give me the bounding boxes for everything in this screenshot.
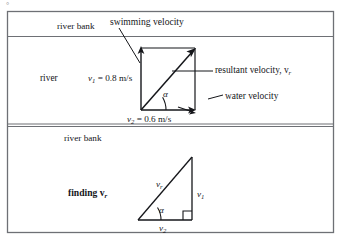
label-alpha-top: α [163,90,168,99]
finding-text: finding v [68,187,105,198]
resultant-velocity-subscript: r [289,69,292,76]
triangle-vr-subscript: r [160,183,163,190]
label-swimming-velocity: swimming velocity [110,17,184,27]
leader-line-swimming-velocity [119,28,140,63]
leader-line-water-velocity [208,95,223,99]
label-alpha-triangle: α [159,206,164,215]
triangle-v1-subscript: 1 [201,193,204,200]
resultant-velocity-text: resultant velocity, v [215,65,289,75]
v2-value-text: = 0.6 m/s [134,114,171,124]
right-angle-marker-icon [183,211,192,220]
label-triangle-v2: v2 [159,224,166,234]
label-triangle-vr: vr [156,180,163,190]
label-river-bank-top: river bank [57,22,95,31]
triangle-v2-subscript: 2 [163,227,166,234]
finding-subscript: r [105,192,108,199]
label-v2-value: v2 = 0.6 m/s [127,115,171,125]
figure-page: ° [0,0,342,242]
label-v1-value: v1 = 0.8 m/s [88,74,132,84]
label-river: river [40,74,58,83]
label-triangle-v1: v1 [197,190,204,200]
v1-value-text: = 0.8 m/s [95,73,132,83]
label-water-velocity: water velocity [225,92,278,101]
label-finding-vr: finding vr [68,188,107,200]
label-resultant-velocity: resultant velocity, vr [215,66,291,77]
label-river-bank-bottom: river bank [64,134,102,143]
resultant-velocity-arrow-shaft [141,52,193,111]
